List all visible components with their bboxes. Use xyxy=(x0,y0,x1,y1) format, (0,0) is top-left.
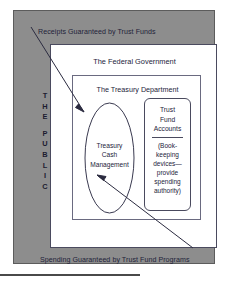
trust-fund-accounts-title: Trust Fund Accounts xyxy=(145,105,190,134)
ellipse-line-2: Cash xyxy=(102,151,117,158)
treasury-cash-management-label: Treasury Cash Management xyxy=(84,141,135,169)
caption-receipts: Receipts Guaranteed by Trust Funds xyxy=(38,28,213,36)
public-letter-c: C xyxy=(42,182,47,191)
public-panel: Receipts Guaranteed by Trust Funds T H E… xyxy=(13,10,215,264)
public-letter-u: U xyxy=(42,139,47,148)
public-letter-h: H xyxy=(42,102,47,111)
public-letter-i: I xyxy=(44,171,46,180)
trust-fund-diagram: Receipts Guaranteed by Trust Funds T H E… xyxy=(0,0,228,282)
treasury-department-title: The Treasury Department xyxy=(73,85,202,94)
ellipse-line-3: Management xyxy=(90,161,129,168)
trust-fund-accounts-box: Trust Fund Accounts (Book- keeping devic… xyxy=(144,98,191,211)
treasury-department-box: The Treasury Department Treasury Cash Ma… xyxy=(72,75,201,220)
trust-fund-title-line-1: Trust xyxy=(160,106,175,113)
trust-fund-note-line-1: (Book- xyxy=(158,142,177,149)
trust-fund-title-line-2: Fund xyxy=(160,116,175,123)
trust-fund-note-line-2: keeping xyxy=(156,151,179,158)
bottom-rule xyxy=(0,274,140,276)
caption-spending: Spending Guaranteed by Trust Fund Progra… xyxy=(40,256,220,264)
trust-fund-note-line-3: devices— xyxy=(153,160,182,167)
trust-fund-note-line-5: spending xyxy=(154,178,180,185)
public-letter-p: P xyxy=(43,129,48,138)
trust-fund-note-line-4: provide xyxy=(157,169,178,176)
trust-fund-accounts-note: (Book- keeping devices— provide spending… xyxy=(145,141,190,196)
trust-fund-note-line-6: authority) xyxy=(154,187,181,194)
federal-government-box: The Federal Government The Treasury Depa… xyxy=(50,44,217,248)
public-letter-b: B xyxy=(42,150,47,159)
treasury-cash-management-ellipse: Treasury Cash Management xyxy=(84,102,135,214)
public-letter-l: L xyxy=(43,161,48,170)
trust-fund-divider xyxy=(152,137,183,138)
federal-government-title: The Federal Government xyxy=(51,57,218,66)
trust-fund-title-line-3: Accounts xyxy=(154,125,182,132)
public-letter-e: E xyxy=(43,112,48,121)
ellipse-line-1: Treasury xyxy=(97,142,123,149)
public-letter-t: T xyxy=(43,91,48,100)
